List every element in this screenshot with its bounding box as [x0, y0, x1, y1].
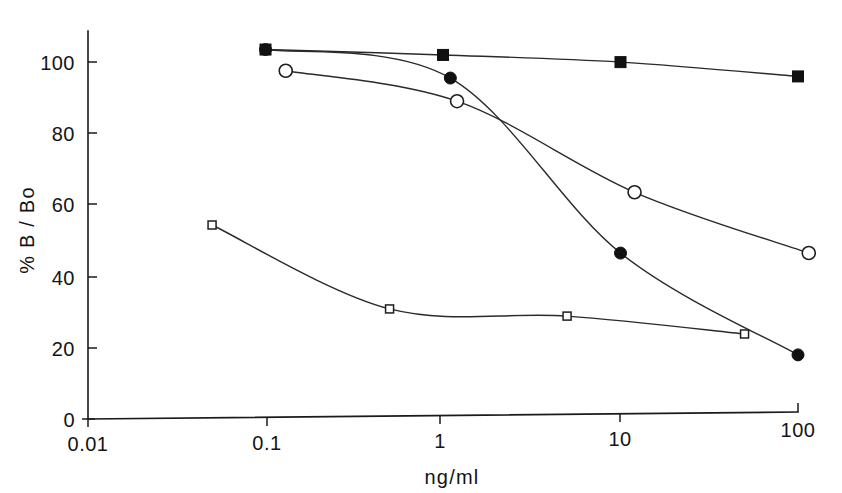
data-point-open-circle-2 [628, 186, 641, 199]
series-line-filled-square [266, 50, 799, 77]
data-point-filled-circle-2 [615, 247, 627, 259]
y-tick-label-80: 80 [52, 123, 75, 145]
series-open-square [208, 221, 749, 338]
y-tick-label-0: 0 [63, 409, 75, 431]
x-axis-title: ng/ml [425, 466, 480, 488]
series-line-filled-circle [266, 50, 799, 355]
data-point-filled-square-2 [615, 57, 626, 68]
data-point-open-circle-0 [279, 64, 292, 77]
series-filled-circle [260, 44, 805, 361]
data-point-open-square-2 [563, 312, 571, 320]
x-axis-line [88, 412, 798, 419]
series-open-circle [279, 64, 815, 259]
y-axis-ticks [82, 62, 97, 419]
y-axis-title: % B / Bo [16, 186, 38, 273]
data-point-filled-square-3 [793, 71, 804, 82]
series-line-open-circle [286, 71, 809, 253]
plot-canvas: 100 80 60 40 20 0 0.01 0.1 1 10 100 ng/m… [0, 0, 842, 493]
x-tick-label-1: 1 [434, 430, 446, 452]
x-tick-label-10: 10 [608, 428, 631, 450]
data-point-filled-circle-3 [792, 349, 804, 361]
x-tick-label-0-01: 0.01 [68, 433, 109, 455]
data-point-filled-square-1 [438, 49, 449, 60]
y-tick-label-100: 100 [40, 52, 75, 74]
chart-figure: 100 80 60 40 20 0 0.01 0.1 1 10 100 ng/m… [0, 0, 842, 493]
data-point-open-square-3 [741, 330, 749, 338]
y-tick-label-20: 20 [52, 338, 75, 360]
data-point-filled-circle-0 [260, 44, 272, 56]
data-point-filled-circle-1 [444, 72, 456, 84]
data-point-open-circle-3 [802, 247, 815, 260]
data-point-open-square-0 [208, 221, 216, 229]
data-point-open-square-1 [386, 305, 394, 313]
series-line-open-square [212, 225, 745, 334]
y-tick-label-60: 60 [52, 194, 75, 216]
series-filled-square [260, 44, 804, 82]
x-tick-label-0-1: 0.1 [252, 432, 281, 454]
data-series-layer [208, 44, 815, 361]
y-tick-label-40: 40 [52, 267, 75, 289]
x-tick-label-100: 100 [781, 419, 816, 441]
data-point-open-circle-1 [451, 95, 464, 108]
